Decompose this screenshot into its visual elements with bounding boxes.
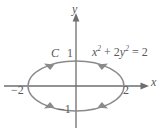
y-tick-label-positive-one: 1 (67, 47, 73, 59)
y-axis-label: y (72, 3, 77, 15)
math-figure: y x C 1 −1 −2 2 x2 + 2y2 = 2 (0, 0, 166, 132)
curve-label-c: C (51, 47, 59, 59)
equation-rhs: 2 (142, 45, 148, 59)
equation-operator: + 2 (101, 45, 120, 59)
y-tick-label-negative-one: −1 (58, 103, 71, 115)
x-axis-label: x (151, 76, 156, 88)
figure-canvas (0, 0, 166, 132)
x-tick-label-positive-two: 2 (123, 84, 129, 96)
equation-equals: = (129, 45, 142, 59)
x-tick-label-negative-two: −2 (11, 84, 24, 96)
x-axis-arrowhead-icon (141, 83, 150, 90)
equation-annotation: x2 + 2y2 = 2 (92, 45, 148, 58)
